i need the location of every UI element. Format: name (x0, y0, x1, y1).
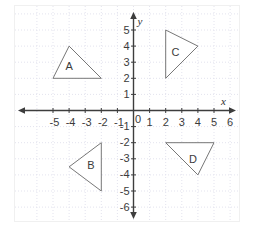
y-axis-label: y (138, 16, 143, 27)
triangle-label-d: D (186, 154, 200, 165)
y-tick-label-5: 5 (114, 25, 130, 36)
y-tick-label-neg3: -3 (114, 153, 130, 164)
plot-canvas (0, 0, 260, 231)
x-tick-label-neg3: -3 (81, 117, 93, 128)
x-tick-label-3: 3 (176, 117, 188, 128)
x-tick-label-6: 6 (224, 117, 236, 128)
x-tick-label-neg5: -5 (49, 117, 61, 128)
x-tick-label-2: 2 (160, 117, 172, 128)
y-tick-label-neg4: -4 (114, 169, 130, 180)
x-tick-label-neg2: -2 (97, 117, 109, 128)
x-tick-label-neg4: -4 (65, 117, 77, 128)
coordinate-plane-figure: -5-4-3-2-1012345654321-1-2-3-4-5-6yxABCD (0, 0, 260, 231)
y-tick-label-neg5: -5 (114, 186, 130, 197)
x-tick-label-0: 0 (135, 114, 143, 125)
y-tick-label-3: 3 (114, 57, 130, 68)
x-axis-label: x (221, 96, 226, 107)
x-tick-label-5: 5 (208, 117, 220, 128)
y-tick-label-neg2: -2 (114, 137, 130, 148)
triangle-label-c: C (168, 47, 182, 58)
x-tick-label-4: 4 (192, 117, 204, 128)
y-tick-label-4: 4 (114, 41, 130, 52)
y-tick-label-neg1: -1 (114, 121, 130, 132)
x-tick-label-1: 1 (144, 117, 156, 128)
x-axis-arrow-left (18, 107, 25, 114)
y-axis-arrow-down (130, 212, 137, 219)
triangle-label-b: B (84, 160, 98, 171)
y-tick-label-2: 2 (114, 73, 130, 84)
y-axis-arrow-up (130, 12, 137, 19)
y-tick-label-neg6: -6 (114, 202, 130, 213)
triangle-label-a: A (62, 61, 76, 72)
y-tick-label-1: 1 (114, 89, 130, 100)
